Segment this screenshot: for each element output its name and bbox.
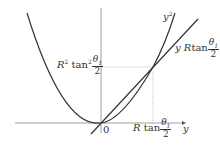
y-label-coef-exp: 2 (65, 58, 69, 65)
fraction-sub: 1 (98, 59, 102, 66)
y-label-fraction: θ12 (92, 55, 103, 76)
line-label-fn: tan (191, 42, 207, 53)
x-axis-label: y (183, 124, 189, 134)
fraction-sub: 1 (214, 42, 218, 49)
y-label-coef: R (57, 59, 65, 70)
fraction-denominator: 2 (92, 67, 103, 76)
tangent-line (91, 19, 198, 134)
x-axis-label-var: y (183, 123, 189, 134)
line-label-var: y (175, 42, 181, 53)
intersection-x-label: R tanθ12 (133, 118, 171, 139)
x-label-fraction: θ12 (160, 118, 171, 139)
y-label-fn: tan (72, 59, 88, 70)
x-label-fn: tan (144, 122, 160, 133)
intersection-y-label: R2 tan2θ12 (57, 55, 103, 76)
line-label-fraction: θ12 (208, 38, 219, 59)
parabola-label-exp: 2 (169, 10, 173, 17)
fraction-sub: 1 (167, 122, 171, 129)
origin-label: 0 (103, 125, 109, 135)
fraction-denominator: 2 (160, 130, 171, 139)
line-label: y Rtanθ12 (175, 38, 219, 59)
x-label-coef: R (133, 122, 141, 133)
parabola-label: y2 (163, 11, 172, 22)
fraction-denominator: 2 (208, 50, 219, 59)
